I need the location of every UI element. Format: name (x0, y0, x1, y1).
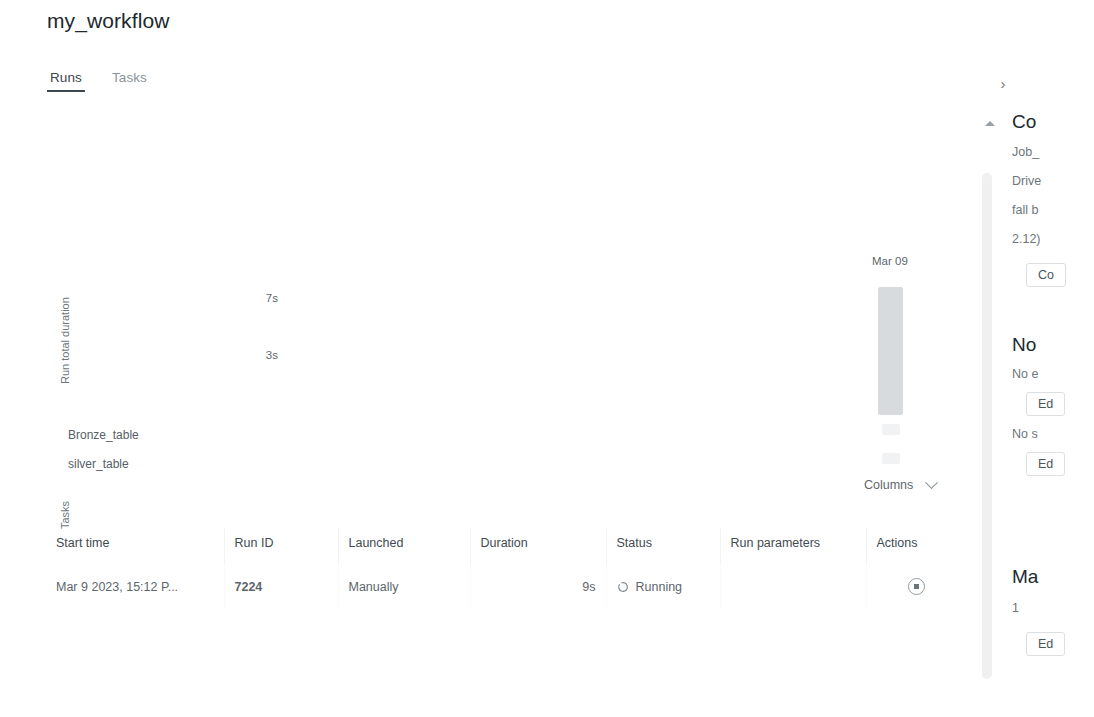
notifications-system-text: No s (1012, 424, 1065, 444)
edit-system-notifications-button[interactable]: Ed (1026, 452, 1065, 476)
compute-section: Co Job_ Drive fall b 2.12) Co (1012, 111, 1066, 287)
chart-x-tick-mar-09: Mar 09 (872, 255, 908, 267)
caret-up-icon[interactable] (985, 118, 997, 130)
column-header-launched[interactable]: Launched (338, 528, 470, 564)
configure-compute-button[interactable]: Co (1026, 263, 1066, 287)
max-concurrent-runs-section: Ma 1 Ed (1012, 566, 1065, 656)
chevron-right-icon[interactable]: › (994, 75, 1012, 93)
compute-detail-line-3: 2.12) (1012, 229, 1066, 249)
chevron-down-icon (925, 476, 938, 489)
stop-circle-icon[interactable] (908, 578, 925, 595)
table-row[interactable]: Mar 9 2023, 15:12 P... 7224 Manually 9s … (46, 564, 966, 609)
chart-y-tick-3s: 3s (238, 349, 278, 361)
tab-runs[interactable]: Runs (46, 70, 86, 92)
cell-status: Running (606, 564, 720, 609)
chart-y-tick-7s: 7s (238, 292, 278, 304)
chart-task-row-bronze-table: Bronze_table (68, 428, 139, 442)
page-title: my_workflow (47, 9, 169, 33)
job-details-side-panel: Co Job_ Drive fall b 2.12) Co No No e Ed… (1012, 106, 1094, 706)
edit-email-notifications-button[interactable]: Ed (1026, 392, 1065, 416)
cell-run-id[interactable]: 7224 (224, 564, 338, 609)
chart-y-axis-label-duration: Run total duration (59, 297, 71, 384)
chart-task-marker-bronze-table[interactable] (882, 424, 900, 435)
status-label: Running (636, 580, 683, 594)
notifications-email-text: No e (1012, 364, 1065, 384)
vertical-scrollbar[interactable] (982, 173, 992, 679)
chart-bar-mar-09[interactable] (878, 287, 903, 415)
cell-start-time: Mar 9 2023, 15:12 P... (46, 564, 224, 609)
compute-cluster-name: Job_ (1012, 142, 1066, 162)
column-header-run-id[interactable]: Run ID (224, 528, 338, 564)
cell-duration: 9s (470, 564, 606, 609)
tab-bar: Runs Tasks (46, 70, 151, 92)
columns-dropdown-label: Columns (864, 478, 913, 492)
run-duration-chart: Run total duration Tasks 7s 3s Bronze_ta… (0, 106, 975, 506)
max-concurrent-runs-heading: Ma (1012, 566, 1065, 588)
column-header-run-parameters[interactable]: Run parameters (720, 528, 866, 564)
compute-heading: Co (1012, 111, 1066, 133)
column-header-actions[interactable]: Actions (866, 528, 966, 564)
column-header-start-time[interactable]: Start time (46, 528, 224, 564)
chart-y-axis-label-tasks: Tasks (59, 501, 71, 529)
cell-launched: Manually (338, 564, 470, 609)
chart-task-marker-silver-table[interactable] (882, 453, 900, 464)
cell-actions (866, 564, 966, 609)
edit-max-concurrent-runs-button[interactable]: Ed (1026, 632, 1065, 656)
notifications-heading: No (1012, 334, 1065, 356)
workflow-page: my_workflow Runs Tasks › Run total durat… (0, 0, 1094, 717)
compute-detail-line-2: fall b (1012, 200, 1066, 220)
columns-dropdown[interactable]: Columns (856, 475, 944, 495)
spinner-icon (617, 581, 629, 593)
max-concurrent-runs-value: 1 (1012, 598, 1065, 618)
compute-detail-line-1: Drive (1012, 171, 1066, 191)
cell-run-parameters (720, 564, 866, 609)
tab-tasks[interactable]: Tasks (108, 70, 151, 92)
table-header-row: Start time Run ID Launched Duration Stat… (46, 528, 966, 564)
runs-table: Start time Run ID Launched Duration Stat… (46, 528, 966, 609)
column-header-duration[interactable]: Duration (470, 528, 606, 564)
chart-task-row-silver-table: silver_table (68, 457, 129, 471)
notifications-section: No No e Ed No s Ed (1012, 334, 1065, 476)
column-header-status[interactable]: Status (606, 528, 720, 564)
